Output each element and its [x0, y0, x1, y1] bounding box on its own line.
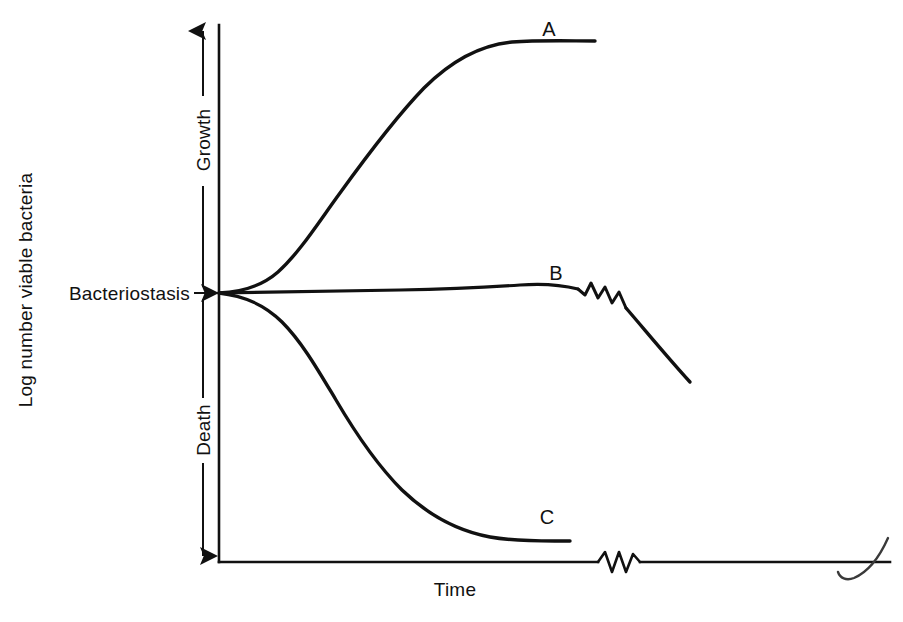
- axis-frame: [219, 25, 890, 572]
- stray-pen-mark-artifact: [838, 538, 888, 579]
- curve-a-growth: [219, 41, 595, 293]
- x-axis-break-zigzag-icon: [598, 552, 640, 572]
- curve-label-c: C: [540, 507, 555, 527]
- curve-label-b: B: [549, 263, 563, 283]
- curve-b-break-zigzag-icon: [578, 283, 626, 308]
- death-region-label: Death: [194, 404, 213, 456]
- growth-region-label: Growth: [194, 109, 213, 171]
- curve-b-plateau-segment: [219, 284, 578, 293]
- curve-c-death: [219, 293, 570, 541]
- x-axis-title: Time: [434, 580, 476, 599]
- bacteriostasis-annotation-label: Bacteriostasis: [69, 284, 190, 303]
- bacterial-growth-curve-figure: [0, 0, 903, 622]
- curve-b-decline-segment: [626, 308, 690, 382]
- curve-label-a: A: [542, 19, 556, 39]
- y-axis-title: Log number viable bacteria: [16, 173, 35, 407]
- figure-container: Log number viable bacteria Growth Death …: [0, 0, 903, 622]
